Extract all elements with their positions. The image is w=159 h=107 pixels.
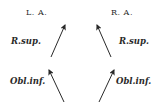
left-upper-arrow-icon — [51, 25, 65, 57]
right-lower-arrow-icon — [99, 70, 114, 102]
arrows-layer — [0, 0, 159, 107]
left-lower-arrow-icon — [49, 70, 64, 102]
right-upper-arrow-icon — [97, 25, 111, 57]
